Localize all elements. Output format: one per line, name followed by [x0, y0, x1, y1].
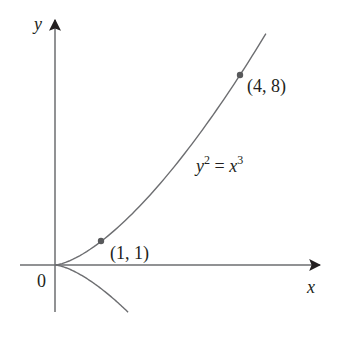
point-label-1-1: (1, 1)	[110, 243, 149, 264]
equation-label: y2 = x3	[194, 153, 243, 176]
x-axis-label: x	[306, 277, 315, 297]
chart-canvas: y x 0 (1, 1) (4, 8) y2 = x3	[0, 0, 342, 345]
point-4-8	[237, 72, 243, 78]
point-label-4-8: (4, 8)	[247, 76, 286, 97]
y-axis-label: y	[32, 14, 42, 34]
point-1-1	[98, 238, 104, 244]
origin-label: 0	[37, 271, 46, 291]
curve-lower-branch	[55, 265, 128, 312]
curve-upper-branch	[55, 34, 266, 265]
